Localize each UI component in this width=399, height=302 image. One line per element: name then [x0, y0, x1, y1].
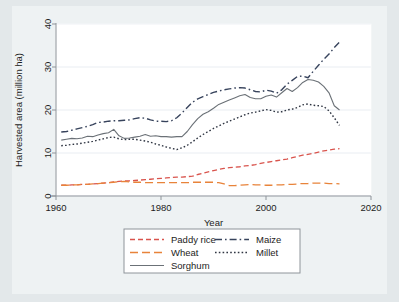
y-tick-label: 10: [42, 148, 53, 159]
y-tick-label: 0: [42, 193, 53, 198]
x-tick-label: 1960: [45, 202, 66, 213]
legend-label-paddy-rice: Paddy rice: [171, 234, 216, 245]
legend: Paddy riceWheatSorghumMaizeMillet: [124, 229, 300, 273]
legend-label-millet: Millet: [256, 247, 279, 258]
chart-figure: 0102030401960198020002020 Harvested area…: [0, 0, 399, 302]
y-tick-label: 20: [42, 105, 53, 116]
legend-label-sorghum: Sorghum: [171, 260, 210, 271]
y-tick-label: 40: [42, 19, 53, 30]
y-axis-title: Harvested area (million ha): [13, 53, 24, 167]
x-tick-label: 2000: [255, 202, 276, 213]
x-axis-title: Year: [204, 217, 223, 228]
x-tick-label: 1980: [150, 202, 171, 213]
line-chart: 0102030401960198020002020 Harvested area…: [0, 0, 399, 302]
x-tick-label: 2020: [360, 202, 381, 213]
y-tick-label: 30: [42, 62, 53, 73]
legend-label-maize: Maize: [256, 234, 281, 245]
legend-label-wheat: Wheat: [171, 247, 199, 258]
